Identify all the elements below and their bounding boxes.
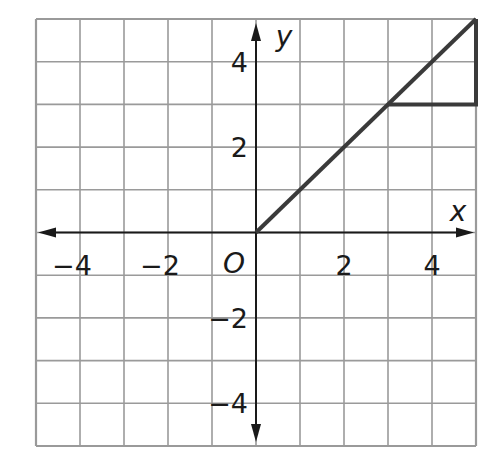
y-tick-label: −2	[208, 303, 248, 334]
y-tick-label: −4	[208, 388, 248, 419]
y-tick-label: 4	[231, 47, 248, 78]
x-tick-label: 4	[423, 250, 440, 281]
x-axis-left-arrow-icon	[38, 228, 56, 238]
y-axis-down-arrow-icon	[251, 424, 261, 442]
x-axis-label: x	[449, 195, 467, 228]
x-tick-label: −4	[52, 250, 92, 281]
x-axis-right-arrow-icon	[456, 228, 474, 238]
y-tick-label: 2	[231, 132, 248, 163]
coordinate-plane: −4−22442−2−4Oyx	[0, 0, 497, 463]
y-axis-label: y	[275, 20, 293, 53]
x-tick-label: −2	[140, 250, 180, 281]
x-tick-label: 2	[335, 250, 352, 281]
origin-label: O	[223, 247, 245, 280]
y-axis-up-arrow-icon	[251, 23, 261, 41]
tick-labels: −4−22442−2−4Oyx	[52, 20, 467, 419]
